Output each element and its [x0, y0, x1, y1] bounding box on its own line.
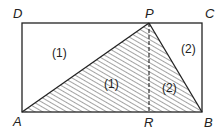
region-label-left-shaded: (1) [104, 77, 119, 91]
region-label-right-unshaded: (2) [181, 42, 196, 56]
label-d: D [13, 6, 22, 21]
label-p: P [145, 6, 154, 21]
label-c: C [205, 6, 215, 21]
region-label-left-unshaded: (1) [52, 46, 67, 60]
region-label-right-shaded: (2) [162, 81, 177, 95]
label-b: B [204, 115, 213, 130]
label-a: A [12, 114, 22, 129]
label-r: R [144, 115, 153, 130]
geometry-diagram: D P C A R B (1) (2) (1) (2) [0, 0, 223, 134]
